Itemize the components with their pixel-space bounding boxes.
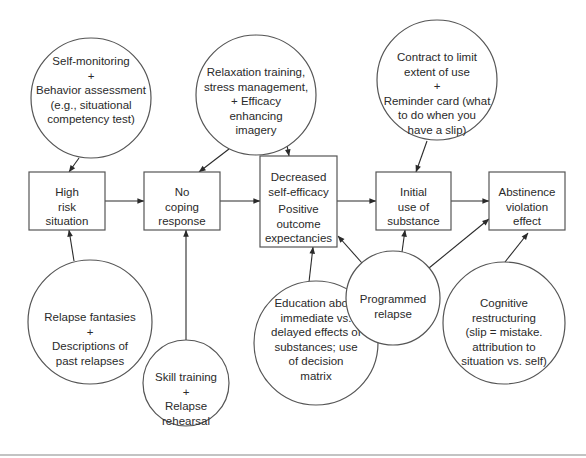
node-text-line: stress management,: [204, 81, 308, 93]
box-node-decreased-efficacy: Decreasedself-efficacyPositiveoutcomeexp…: [260, 156, 337, 247]
box-node-initial-use: Initialuse ofsubstance: [376, 172, 451, 230]
node-text-line: +: [183, 386, 190, 398]
box-node-abstinence-violation: Abstinenceviolationeffect: [489, 172, 565, 230]
node-text-line: situation: [46, 215, 89, 227]
node-text-line: response: [158, 215, 205, 227]
circle-node-contract-reminder: Contract to limitextent of use+Reminder …: [377, 20, 497, 140]
circle-shape: [143, 340, 229, 426]
node-text-line: self-efficacy: [268, 186, 329, 198]
node-text-line: + Efficacy: [231, 95, 281, 107]
circle-node-programmed-relapse: Programmedrelapse: [346, 251, 440, 345]
node-text-line: coping: [165, 201, 199, 213]
node-text-line: imagery: [236, 124, 277, 136]
circle-node-relaxation-training: Relaxation training,stress management,+ …: [196, 35, 316, 155]
node-text-line: outcome: [276, 218, 320, 230]
node-text-line: effect: [513, 215, 542, 227]
node-text-line: restructuring: [472, 312, 536, 324]
node-text-line: delayed effects of: [271, 326, 362, 338]
node-text-line: +: [87, 326, 94, 338]
node-text-line: immediate vs.: [281, 312, 352, 324]
node-text-line: Positive: [278, 203, 318, 215]
node-text-line: Descriptions of: [52, 340, 129, 352]
node-text-line: past relapses: [56, 355, 125, 367]
node-text-line: Skill training: [155, 371, 217, 383]
circle-node-cognitive-restructuring: Cognitiverestructuring(slip = mistake.at…: [443, 262, 565, 384]
arrow-programmed-relapse-to-initial-use: [402, 230, 405, 252]
node-text-line: competency test): [47, 113, 135, 125]
node-text-line: +: [434, 80, 441, 92]
node-text-line: +: [88, 70, 95, 82]
node-text-line: expectancies: [265, 232, 332, 244]
node-text-line: violation: [506, 201, 548, 213]
arrow-cognitive-restructuring-to-abstinence-violation: [505, 233, 528, 262]
node-text-line: Abstinence: [499, 186, 556, 198]
node-text-line: Cognitive: [480, 297, 528, 309]
node-text-line: Behavior assessment: [36, 84, 147, 96]
node-text-line: High: [55, 186, 79, 198]
box-node-high-risk: Highrisksituation: [29, 172, 105, 230]
node-text-line: matrix: [300, 370, 332, 382]
node-text-line: No: [175, 186, 190, 198]
node-text-line: Self-monitoring: [52, 55, 129, 67]
box-node-no-coping: Nocopingresponse: [144, 172, 220, 230]
node-text-line: attribution to: [472, 341, 535, 353]
arrow-programmed-relapse-to-decreased-efficacy: [338, 236, 362, 263]
node-text-line: of decision: [289, 355, 344, 367]
arrow-relaxation-training-to-no-coping: [199, 149, 229, 172]
circle-node-skill-training: Skill training+Relapserehearsal: [143, 340, 229, 427]
node-text-line: substances; use: [274, 341, 357, 353]
node-text-line: rehearsal: [162, 415, 210, 427]
node-text-line: (slip = mistake.: [465, 326, 542, 338]
node-text-line: substance: [387, 215, 439, 227]
node-text-line: extent of use: [404, 66, 470, 78]
node-text-line: Contract to limit: [397, 51, 478, 63]
node-text-line: Programmed: [360, 293, 426, 305]
node-text-line: Initial: [400, 186, 427, 198]
node-text-line: situation vs. self): [461, 355, 547, 367]
node-text-line: Reminder card (what: [384, 95, 492, 107]
arrow-education-to-decreased-efficacy: [309, 247, 313, 282]
arrow-relapse-fantasies-to-high-risk: [69, 230, 74, 261]
node-text-line: Relaxation training,: [207, 66, 305, 78]
node-text-line: enhancing: [229, 110, 282, 122]
node-text-line: have a slip): [408, 124, 467, 136]
circle-node-self-monitoring: Self-monitoring+Behavior assessment(e.g.…: [31, 38, 151, 158]
node-text-line: Decreased: [271, 171, 327, 183]
node-text-line: to do when you: [398, 109, 476, 121]
node-text-line: relapse: [374, 308, 412, 320]
node-text-line: (e.g., situational: [50, 99, 131, 111]
node-text-line: risk: [58, 201, 76, 213]
node-text-line: use of: [398, 201, 430, 213]
node-text-line: Relapse fantasies: [44, 311, 136, 323]
arrow-contract-reminder-to-initial-use: [416, 141, 427, 172]
circle-node-relapse-fantasies: Relapse fantasies+Descriptions ofpast re…: [28, 260, 152, 384]
relapse-prevention-diagram: Self-monitoring+Behavior assessment(e.g.…: [0, 0, 586, 458]
node-text-line: Relapse: [165, 400, 207, 412]
arrow-self-monitoring-to-high-risk: [69, 158, 79, 172]
